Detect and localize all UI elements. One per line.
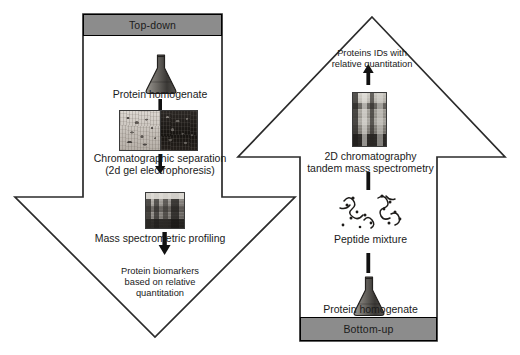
left-step-2-label-line1: Chromatographic separation (50, 152, 270, 164)
top-down-band: Top-down (83, 14, 222, 36)
left-step-4-label-line3: quantitation (95, 288, 225, 299)
left-step-1-label: Protein homogenate (60, 88, 260, 100)
right-step-1-label-line1: Proteins IDs with (308, 48, 436, 59)
left-step-4-label-line1: Protein biomarkers (95, 266, 225, 277)
right-step-4-label: Protein homogenate (288, 303, 453, 315)
diagram-canvas: Top-down Bottom-up Protein homogenate Ch… (0, 0, 520, 355)
mass-spectrometer-photo (145, 192, 185, 229)
bottom-up-band-label: Bottom-up (343, 323, 393, 335)
top-down-band-label: Top-down (129, 19, 176, 31)
right-step-3-label: Peptide mixture (288, 233, 453, 245)
2d-gel-image-dark (160, 110, 198, 151)
left-step-3-label: Mass spectrometric profiling (45, 232, 275, 244)
2d-gel-image-light (119, 110, 161, 151)
right-step-1-label-line2: relative quantitation (308, 59, 436, 70)
right-step-2-label-line2: tandem mass spectrometry (283, 162, 458, 174)
left-step-4-label-line2: based on relative (95, 277, 225, 288)
lc-msms-instrument-photo (352, 92, 387, 147)
right-step-2-label-line1: 2D chromatography (288, 150, 453, 162)
left-step-2-label-line2: (2d gel electrophoresis) (50, 164, 270, 176)
bottom-up-band: Bottom-up (300, 317, 437, 341)
peptide-squiggles-icon (334, 192, 410, 235)
arrow-outlines (0, 0, 520, 355)
